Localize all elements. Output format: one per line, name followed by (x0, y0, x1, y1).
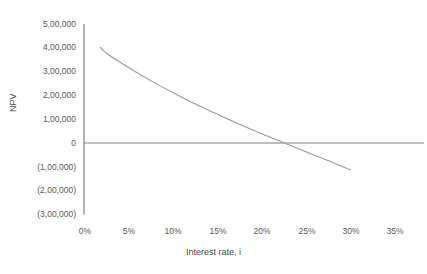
x-tick-label-35pct: 35% (386, 227, 403, 236)
x-tick-label-30pct: 30% (342, 227, 359, 236)
npv-curve-line (100, 47, 351, 170)
y-axis-title: NPV (9, 93, 18, 112)
x-axis-title: Interest rate, i (0, 248, 427, 257)
x-tick-label-20pct: 20% (253, 227, 270, 236)
y-tick-label-minus100000: (1,00,000) (8, 163, 76, 172)
y-tick-label-minus300000: (3,00,000) (8, 210, 76, 219)
npv-vs-interest-rate-chart: 5,00,000 4,00,000 3,00,000 2,00,000 1,00… (0, 0, 427, 274)
y-tick-label-100000: 1,00,000 (8, 115, 76, 124)
y-tick-label-minus200000: (2,00,000) (8, 186, 76, 195)
y-tick-label-500000: 5,00,000 (8, 20, 76, 29)
x-tick-label-10pct: 10% (164, 227, 181, 236)
x-tick-label-25pct: 25% (298, 227, 315, 236)
x-tick-label-0pct: 0% (79, 227, 91, 236)
x-tick-label-5pct: 5% (123, 227, 135, 236)
y-tick-label-300000: 3,00,000 (8, 67, 76, 76)
y-tick-label-0: 0 (8, 139, 76, 148)
x-tick-label-15pct: 15% (209, 227, 226, 236)
y-tick-label-400000: 4,00,000 (8, 43, 76, 52)
y-tick-label-200000: 2,00,000 (8, 91, 76, 100)
